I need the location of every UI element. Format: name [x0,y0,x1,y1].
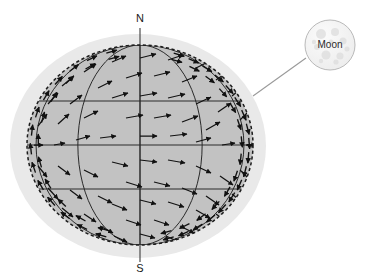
moon-crater-10 [319,59,323,63]
moon-crater-4 [322,51,331,60]
moon-callout: Moon [305,20,355,70]
right-limb-arrow-9 [248,152,249,163]
moon-crater-0 [316,29,326,39]
north-pole-label: N [136,12,144,24]
moon-leader-line [253,58,306,96]
moon-crater-8 [312,40,316,44]
tidal-field-figure: Moon N S [0,0,369,278]
diagram-canvas: Moon N S [0,0,369,278]
moon-crater-5 [337,53,344,60]
moon-crater-7 [345,47,350,52]
moon-crater-1 [331,28,339,36]
moon-crater-9 [333,59,338,64]
moon-label: Moon [317,39,342,50]
south-pole-label: S [136,262,143,274]
right-limb-arrow-8 [249,138,250,149]
